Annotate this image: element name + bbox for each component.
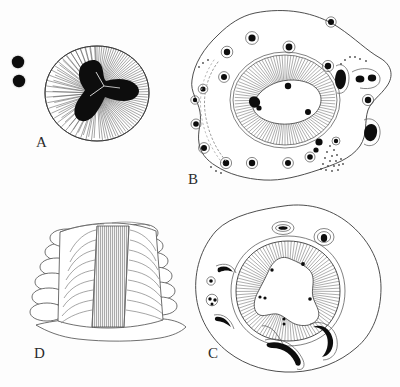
satellite-granule-upper	[12, 56, 24, 68]
panel-b: B	[188, 11, 391, 187]
lumen-granule	[308, 297, 312, 301]
panel-a-satellite-granules	[9, 53, 27, 89]
satellite-granule-lower	[13, 75, 25, 87]
lumen-granule	[301, 262, 305, 266]
panel-c: C	[196, 205, 381, 372]
panel-d: D	[30, 222, 186, 361]
figure-svg: A	[0, 0, 400, 387]
lumen-granule	[256, 105, 261, 110]
panel-a: A	[9, 39, 149, 150]
lumen-granule	[270, 268, 273, 271]
panel-label-d: D	[34, 345, 45, 361]
lumen-granule	[283, 323, 286, 326]
granule-elongate	[364, 124, 377, 141]
lumen-granule	[285, 83, 291, 89]
panel-label-b: B	[188, 171, 199, 187]
panel-label-c: C	[208, 345, 219, 361]
lumen-granule	[305, 109, 311, 115]
panel-d-median-band	[92, 226, 129, 327]
lumen-granule	[282, 317, 285, 320]
lumen-granule	[263, 296, 266, 299]
figure-plate: A	[0, 0, 400, 387]
panel-label-a: A	[36, 134, 47, 150]
lumen-granule	[258, 295, 261, 298]
